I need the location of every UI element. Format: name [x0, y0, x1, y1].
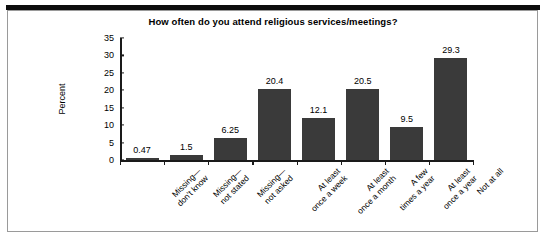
y-axis-tick-mark — [120, 142, 124, 143]
y-axis-tick-mark — [120, 72, 124, 73]
bar-value-label: 1.5 — [180, 143, 193, 152]
x-axis-tick-mark — [385, 160, 386, 165]
bar-value-label: 9.5 — [401, 115, 414, 124]
x-axis-tick-mark — [429, 160, 430, 165]
x-axis-tick-mark — [341, 160, 342, 165]
bar-value-label: 6.25 — [222, 126, 240, 135]
x-axis-tick-mark — [297, 160, 298, 165]
bar-value-label: 12.1 — [310, 106, 328, 115]
bar-value-label: 0.47 — [133, 146, 151, 155]
y-axis-tick-label: 15 — [54, 103, 120, 112]
y-axis-tick-label: 10 — [54, 121, 120, 130]
figure-panel: How often do you attend religious servic… — [0, 0, 546, 238]
bar[interactable] — [302, 118, 335, 160]
bar[interactable] — [214, 138, 247, 160]
y-axis-tick-label: 0 — [54, 156, 120, 165]
y-axis-tick-label: 30 — [54, 51, 120, 60]
bar[interactable] — [170, 155, 203, 160]
bar-value-label: 20.4 — [266, 77, 284, 86]
y-axis-tick-mark — [120, 125, 124, 126]
x-axis-tick-mark — [164, 160, 165, 165]
bar[interactable] — [390, 127, 423, 160]
bar[interactable] — [258, 89, 291, 160]
y-axis-tick-mark — [120, 107, 124, 108]
y-axis-tick-label: 5 — [54, 138, 120, 147]
bar[interactable] — [434, 58, 467, 160]
y-axis-tick-label: 25 — [54, 68, 120, 77]
plot-area: 05101520253035 0.471.56.2520.412.120.59.… — [120, 38, 473, 160]
y-axis-tick-mark — [120, 90, 124, 91]
x-axis-tick-mark — [473, 160, 474, 165]
y-axis-tick-label: 35 — [54, 34, 120, 43]
bar[interactable] — [346, 89, 379, 160]
x-axis-tick-mark — [120, 160, 121, 165]
y-axis-tick-mark — [120, 37, 124, 38]
x-axis-tick-mark — [208, 160, 209, 165]
chart-title: How often do you attend religious servic… — [0, 16, 546, 27]
bar-value-label: 29.3 — [442, 46, 460, 55]
y-axis-tick-mark — [120, 55, 124, 56]
x-axis-tick-mark — [252, 160, 253, 165]
y-axis-tick-label: 20 — [54, 86, 120, 95]
bar[interactable] — [126, 158, 159, 160]
bar-value-label: 20.5 — [354, 77, 372, 86]
